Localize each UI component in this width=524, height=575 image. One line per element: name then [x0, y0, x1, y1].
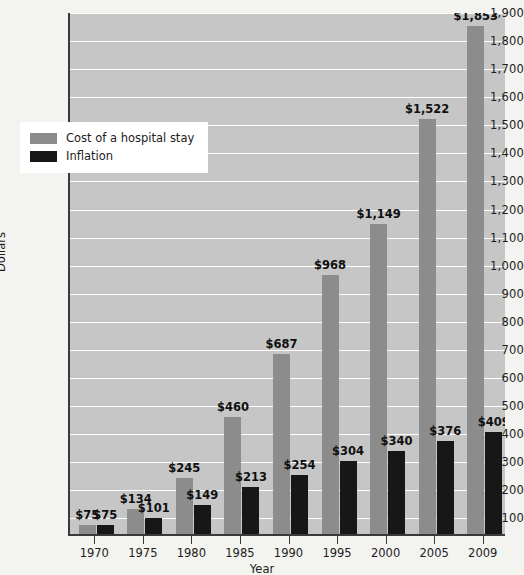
y-axis-tick-label: 400	[462, 427, 524, 441]
bar[interactable]	[437, 441, 454, 535]
y-axis-tick-label: 700	[462, 343, 524, 357]
gridline	[70, 294, 505, 295]
chart-legend: Cost of a hospital stayInflation	[20, 122, 208, 173]
bar[interactable]	[419, 119, 436, 535]
legend-item[interactable]: Cost of a hospital stay	[30, 129, 194, 147]
bar-value-label: $1,522	[405, 102, 449, 116]
x-axis-tick-mark	[289, 536, 290, 544]
y-axis-tick-label: 1,200	[462, 203, 524, 217]
gridline	[70, 266, 505, 267]
y-axis-title: Dollars	[0, 232, 8, 272]
y-axis-tick-label: 1,500	[462, 118, 524, 132]
gridline	[70, 97, 505, 98]
x-axis-tick-mark	[434, 536, 435, 544]
bar-value-label: $101	[138, 501, 170, 515]
x-axis-tick-mark	[483, 536, 484, 544]
bar[interactable]	[194, 505, 211, 535]
bar-value-label: $687	[265, 337, 297, 351]
bar[interactable]	[145, 518, 162, 535]
y-axis-tick-label: 1,400	[462, 146, 524, 160]
bar-value-label: $304	[332, 444, 364, 458]
x-axis-tick-mark	[94, 536, 95, 544]
bar[interactable]	[322, 275, 339, 535]
bar[interactable]	[242, 487, 259, 535]
gridline	[70, 41, 505, 42]
bar-value-label: $75	[93, 508, 117, 522]
plot-inner: $75$75$134$101$245$149$460$213$687$254$9…	[70, 13, 505, 535]
y-axis-tick-label: 900	[462, 287, 524, 301]
x-axis-tick-label: 2009	[453, 546, 513, 560]
y-axis-tick-label: 1,700	[462, 62, 524, 76]
legend-swatch-icon	[30, 133, 57, 144]
legend-item-label: Cost of a hospital stay	[66, 131, 194, 145]
bar[interactable]	[291, 475, 308, 535]
gridline	[70, 69, 505, 70]
x-axis-tick-mark	[337, 536, 338, 544]
x-axis-line-dashed-tail	[440, 534, 505, 536]
x-axis-tick-mark	[191, 536, 192, 544]
bar[interactable]	[340, 461, 357, 535]
bar-value-label: $340	[381, 434, 413, 448]
y-axis-tick-label: 800	[462, 315, 524, 329]
x-axis-title: Year	[0, 562, 524, 575]
y-axis-tick-label: 1,600	[462, 90, 524, 104]
bar-value-label: $245	[168, 461, 200, 475]
gridline	[70, 210, 505, 211]
y-axis-tick-label: 500	[462, 399, 524, 413]
x-axis-tick-mark	[143, 536, 144, 544]
bar[interactable]	[176, 478, 193, 535]
bar[interactable]	[273, 354, 290, 535]
bar-value-label: $968	[314, 258, 346, 272]
y-axis-tick-label: 1,000	[462, 259, 524, 273]
y-axis-tick-label: 1,800	[462, 34, 524, 48]
bar-value-label: $149	[186, 488, 218, 502]
gridline	[70, 181, 505, 182]
plot-area: $75$75$134$101$245$149$460$213$687$254$9…	[68, 13, 505, 535]
y-axis-tick-label: 1,300	[462, 174, 524, 188]
legend-item-label: Inflation	[66, 149, 113, 163]
legend-item[interactable]: Inflation	[30, 147, 194, 165]
x-axis-tick-mark	[386, 536, 387, 544]
gridline	[70, 13, 505, 14]
y-axis-tick-label: 200	[462, 483, 524, 497]
y-axis-tick-label: 600	[462, 371, 524, 385]
bar-value-label: $254	[283, 458, 315, 472]
bar[interactable]	[388, 451, 405, 535]
bar-value-label: $213	[235, 470, 267, 484]
bar-value-label: $460	[217, 400, 249, 414]
bar[interactable]	[370, 224, 387, 535]
x-axis-tick-mark	[240, 536, 241, 544]
gridline	[70, 322, 505, 323]
legend-swatch-icon	[30, 151, 57, 162]
gridline	[70, 238, 505, 239]
bar-value-label: $1,149	[356, 207, 400, 221]
y-axis-tick-label: 1,100	[462, 231, 524, 245]
y-axis-tick-label: 1,900	[462, 6, 524, 20]
y-axis-tick-label: 300	[462, 455, 524, 469]
y-axis-tick-label: 100	[462, 511, 524, 525]
bar-value-label: $376	[429, 424, 461, 438]
chart-page: $75$75$134$101$245$149$460$213$687$254$9…	[0, 0, 524, 575]
